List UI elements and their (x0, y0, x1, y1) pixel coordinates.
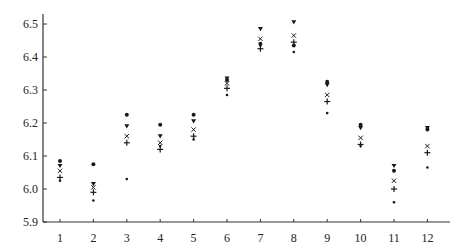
point-triangle-down (291, 20, 296, 24)
x-tick-label: 2 (90, 231, 96, 245)
x-tick-label: 3 (124, 231, 130, 245)
point-x (425, 144, 429, 148)
data-points (57, 20, 430, 203)
y-tick-label: 6.1 (23, 149, 38, 163)
x-tick-label: 6 (224, 231, 230, 245)
point-x (58, 169, 62, 173)
point-plus (291, 39, 297, 45)
x-tick-label: 10 (355, 231, 367, 245)
x-tick-label: 7 (257, 231, 263, 245)
point-triangle-down (191, 119, 196, 123)
scatter-chart: 5.96.06.16.26.36.46.5123456789101112 (0, 0, 455, 250)
point-small-dot (393, 201, 396, 204)
x-tick-label: 4 (157, 231, 163, 245)
point-plus (90, 189, 96, 195)
point-triangle-down (58, 164, 63, 168)
point-dot (125, 113, 129, 117)
x-tick-label: 5 (191, 231, 197, 245)
y-tick-label: 6.0 (23, 182, 38, 196)
point-small-dot (59, 179, 62, 182)
point-triangle-down (124, 124, 129, 128)
point-x (258, 37, 262, 41)
point-small-dot (159, 145, 162, 148)
point-dot (91, 162, 95, 166)
point-plus (224, 85, 230, 91)
y-tick-label: 6.5 (23, 17, 38, 31)
y-tick-label: 6.2 (23, 116, 38, 130)
point-x (125, 134, 129, 138)
point-small-dot (192, 138, 195, 141)
point-plus (424, 150, 430, 156)
axes: 5.96.06.16.26.36.46.5123456789101112 (23, 14, 450, 245)
point-triangle-down (358, 126, 363, 130)
x-tick-label: 12 (421, 231, 433, 245)
point-triangle-down (258, 27, 263, 31)
point-small-dot (126, 178, 129, 181)
point-small-dot (226, 94, 229, 97)
x-tick-label: 1 (57, 231, 63, 245)
x-tick-label: 8 (291, 231, 297, 245)
y-tick-label: 6.4 (23, 50, 38, 64)
point-triangle-down (158, 134, 163, 138)
point-x (191, 127, 195, 131)
point-small-dot (92, 199, 95, 202)
point-x (392, 179, 396, 183)
point-dot (192, 113, 196, 117)
x-tick-label: 9 (324, 231, 330, 245)
point-small-dot (293, 51, 296, 54)
point-plus (124, 140, 130, 146)
y-tick-label: 5.9 (23, 215, 38, 229)
x-tick-label: 11 (388, 231, 400, 245)
point-small-dot (426, 166, 429, 169)
point-triangle-down (392, 164, 397, 168)
point-plus (391, 186, 397, 192)
point-x (325, 93, 329, 97)
point-dot (158, 123, 162, 127)
point-dot (58, 159, 62, 163)
point-small-dot (326, 112, 329, 115)
point-small-dot (359, 145, 362, 148)
point-x (158, 141, 162, 145)
point-x (358, 136, 362, 140)
point-small-dot (259, 44, 262, 47)
point-dot (392, 169, 396, 173)
y-tick-label: 6.3 (23, 83, 38, 97)
point-plus (324, 99, 330, 105)
point-triangle-down (325, 83, 330, 87)
point-x (292, 33, 296, 37)
